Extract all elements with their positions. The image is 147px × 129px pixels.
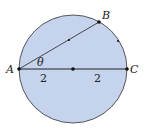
midpoint-AB: [68, 39, 70, 41]
arc-point: [117, 40, 119, 42]
label-theta: θ: [37, 56, 44, 69]
segment-label-left: 2: [40, 72, 47, 85]
circle-diagram: A B C θ 2 2: [0, 0, 147, 129]
center-point: [71, 67, 75, 71]
segment-label-right: 2: [94, 72, 101, 85]
label-B: B: [101, 9, 110, 22]
point-A: [17, 67, 21, 71]
point-C: [125, 67, 129, 71]
point-B: [97, 20, 101, 24]
label-A: A: [5, 63, 14, 76]
label-C: C: [130, 63, 139, 76]
